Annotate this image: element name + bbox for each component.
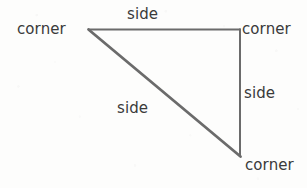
label-corner-left: corner <box>17 22 66 37</box>
label-corner-top-right: corner <box>242 22 291 37</box>
label-side-hypotenuse: side <box>117 101 148 116</box>
triangle-hypotenuse-edge <box>89 30 241 157</box>
label-side-right: side <box>244 86 275 101</box>
diagram-canvas: corner side corner side side corner <box>0 0 307 188</box>
label-corner-bottom-right: corner <box>245 158 294 173</box>
label-side-top: side <box>127 7 158 22</box>
triangle-outline <box>88 29 241 157</box>
